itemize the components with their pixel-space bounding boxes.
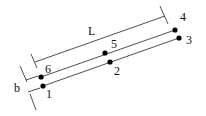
beam-diagram: 1 2 3 4 5 6 L b bbox=[0, 0, 206, 116]
width-label: b bbox=[14, 81, 20, 95]
nodes bbox=[38, 27, 181, 88]
node-5-dot bbox=[102, 50, 107, 55]
width-leader-top bbox=[26, 76, 38, 80]
node-6-dot bbox=[38, 74, 43, 79]
node-3-dot bbox=[176, 35, 181, 40]
length-extension-right bbox=[160, 6, 168, 24]
length-dimension-line bbox=[35, 16, 165, 62]
length-label: L bbox=[88, 24, 95, 38]
length-extension-left bbox=[31, 54, 37, 68]
node-2-label: 2 bbox=[114, 64, 120, 78]
node-4-label: 4 bbox=[180, 10, 186, 24]
node-3-label: 3 bbox=[186, 33, 192, 47]
node-5-label: 5 bbox=[111, 37, 117, 51]
node-2-dot bbox=[107, 59, 112, 64]
width-leader-bottom bbox=[28, 88, 40, 92]
node-1-label: 1 bbox=[46, 87, 52, 101]
width-extension-bottom bbox=[30, 94, 36, 110]
node-1-dot bbox=[40, 83, 45, 88]
node-6-label: 6 bbox=[45, 62, 51, 76]
upper-edge-line bbox=[41, 30, 175, 77]
node-4-dot bbox=[172, 27, 177, 32]
